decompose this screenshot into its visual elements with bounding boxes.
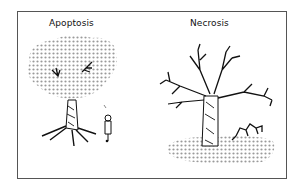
necrosis-tree-icon — [160, 44, 274, 164]
apoptosis-tree-icon — [28, 35, 117, 146]
illustration — [0, 0, 304, 189]
